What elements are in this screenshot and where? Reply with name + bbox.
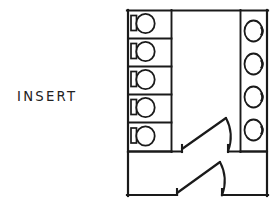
- water-closet-5: [131, 126, 155, 145]
- entry-door: [177, 162, 225, 196]
- water-closet-fixtures: [131, 14, 155, 146]
- insert-annotation-label: INSERT: [17, 88, 77, 105]
- interior-door-leaf: [182, 118, 226, 149]
- sink-basin-4: [245, 120, 263, 141]
- lavatory-3: [245, 87, 263, 108]
- floor-plan-canvas: INSERT: [0, 0, 279, 209]
- lavatory-4: [245, 120, 263, 141]
- interior-wall-mid: [128, 145, 267, 152]
- lavatory-fixtures: [245, 21, 263, 141]
- lavatory-1: [245, 21, 263, 42]
- toilet-bowl-3: [136, 70, 154, 89]
- water-closet-4: [131, 98, 155, 117]
- sink-basin-1: [245, 21, 263, 42]
- sink-basin-3: [245, 87, 263, 108]
- interior-door: [182, 118, 231, 152]
- toilet-bowl-4: [136, 98, 154, 117]
- toilet-bowl-1: [136, 14, 154, 33]
- toilet-bowl-5: [136, 126, 154, 145]
- lavatory-2: [245, 54, 263, 75]
- toilet-bowl-2: [136, 42, 154, 61]
- water-closet-2: [131, 42, 155, 61]
- water-closet-3: [131, 70, 155, 89]
- water-closet-1: [131, 14, 155, 33]
- entry-door-leaf: [177, 162, 220, 193]
- sink-basin-2: [245, 54, 263, 75]
